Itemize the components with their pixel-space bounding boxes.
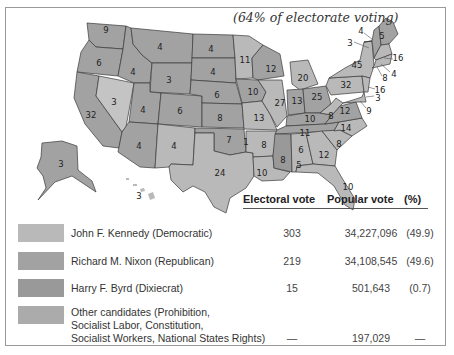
candidate-other-line3: Socialist Workers, National States Right…	[71, 332, 265, 345]
electoral-nixon: 219	[262, 255, 322, 267]
popular-nixon: 34,108,545	[336, 255, 406, 267]
candidate-byrd: Harry F. Byrd (Dixiecrat)	[71, 282, 183, 295]
results-legend-table: Electoral vote Popular vote (%) John F. …	[0, 0, 454, 355]
percent-kennedy: (49.9)	[400, 227, 440, 239]
swatch-byrd	[18, 279, 64, 297]
header-electoral-vote: Electoral vote	[243, 193, 315, 205]
percent-byrd: (0.7)	[400, 282, 440, 294]
popular-other: 197,029	[336, 332, 406, 344]
header-popular-vote: Popular vote	[327, 193, 394, 205]
header-rule	[243, 208, 428, 209]
swatch-kennedy	[18, 224, 64, 242]
electoral-kennedy: 303	[262, 227, 322, 239]
percent-other: —	[400, 332, 440, 344]
candidate-kennedy: John F. Kennedy (Democratic)	[71, 227, 212, 240]
header-percent: (%)	[404, 193, 421, 205]
candidate-other-line2: Socialist Labor, Constitution,	[71, 319, 204, 332]
swatch-other	[18, 306, 64, 324]
popular-byrd: 501,643	[336, 282, 406, 294]
percent-nixon: (49.6)	[400, 255, 440, 267]
candidate-other-line1: Other candidates (Prohibition,	[71, 306, 210, 319]
electoral-other: —	[262, 332, 322, 344]
electoral-byrd: 15	[262, 282, 322, 294]
popular-kennedy: 34,227,096	[336, 227, 406, 239]
swatch-nixon	[18, 252, 64, 270]
candidate-nixon: Richard M. Nixon (Republican)	[71, 255, 214, 268]
